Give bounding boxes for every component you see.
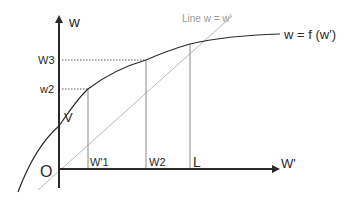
x-tick-w2-label: W2	[149, 156, 166, 168]
x-tick-w1-label: W'1	[90, 156, 109, 168]
diagonal-label: Line w = w'	[182, 13, 232, 24]
curve-label: w = f (w')	[283, 27, 336, 42]
origin-label: O	[40, 163, 52, 180]
intercept-v-label: V	[64, 110, 73, 125]
x-axis-label: W'	[281, 156, 296, 171]
wage-diagram: w W' O W3 w2 V W'1 W2 L w = f (w') Line …	[0, 0, 349, 204]
y-tick-w3-label: W3	[38, 54, 55, 66]
y-tick-w2-label: w2	[39, 83, 54, 95]
diagonal-line-w-equals-wprime	[38, 16, 232, 190]
x-tick-l-label: L	[193, 154, 201, 170]
y-axis-label: w	[68, 13, 80, 30]
